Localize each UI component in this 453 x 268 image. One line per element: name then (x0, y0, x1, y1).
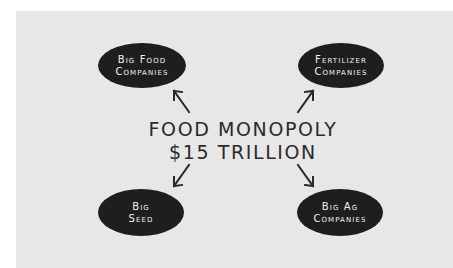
node-label-line2: Seed (129, 213, 154, 225)
node-label-line2: Companies (313, 213, 366, 225)
node-big-food-companies: Big Food Companies (98, 43, 186, 88)
node-label-line1: Big (132, 201, 150, 213)
center-title-line2: $15 TRILLION (120, 141, 366, 164)
node-label-line1: Big Food (118, 54, 167, 66)
node-big-ag-companies: Big Ag Companies (297, 189, 383, 236)
node-label-line1: Fertilizer (315, 54, 367, 66)
node-big-seed: Big Seed (98, 189, 184, 236)
node-label-line1: Big Ag (322, 201, 358, 213)
node-fertilizer-companies: Fertilizer Companies (298, 43, 384, 88)
center-title-line1: FOOD MONOPOLY (120, 118, 366, 141)
node-label-line2: Companies (314, 66, 367, 78)
node-label-line2: Companies (115, 66, 168, 78)
